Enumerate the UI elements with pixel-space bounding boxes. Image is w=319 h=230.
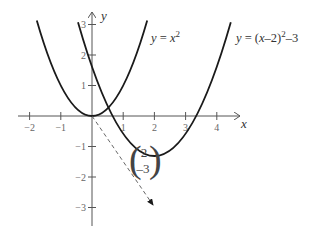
y-tick-label: −3 — [75, 202, 86, 213]
vector-top: 2 — [141, 145, 148, 160]
x-tick-label: 2 — [152, 122, 157, 133]
vector-bottom: –3 — [136, 161, 150, 176]
column-vector: ( 2 –3 ) — [129, 138, 162, 181]
label-translated-parabola: y = (x–2)2–3 — [234, 29, 298, 45]
x-tick-label: −2 — [24, 122, 35, 133]
y-tick-label: 1 — [81, 80, 86, 91]
y-tick-label: 2 — [81, 50, 86, 61]
x-axis-label: x — [240, 116, 247, 131]
y-tick-label: −2 — [75, 172, 86, 183]
graph-figure: −2 −1 1 2 3 4 3 2 1 −1 −2 −3 x y y = x2 … — [0, 0, 319, 230]
y-tick-label: −1 — [75, 141, 86, 152]
y-axis-label: y — [99, 8, 107, 23]
x-tick-label: 4 — [214, 122, 219, 133]
right-paren: ) — [149, 138, 162, 181]
x-tick-label: −1 — [55, 122, 66, 133]
label-y-equals-x-squared: y = x2 — [149, 29, 180, 45]
y-tick-label: 3 — [81, 19, 86, 30]
